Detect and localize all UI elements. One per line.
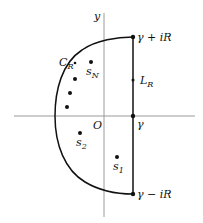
c-r-marker-dot <box>74 62 77 65</box>
gamma-label: γ <box>137 118 144 131</box>
contour-diagram: y O γ + iR γ γ − iR LR CR sN s2 s1 <box>0 0 203 223</box>
point-s-1 <box>115 155 119 159</box>
point-b <box>68 91 72 95</box>
bottom-point-dot <box>131 192 135 196</box>
l-r-marker-dot <box>132 79 135 82</box>
origin-label: O <box>93 119 102 132</box>
s-1-label: s1 <box>113 160 124 175</box>
l-r-label: LR <box>139 74 153 89</box>
gamma-point-dot <box>131 114 135 118</box>
point-c <box>65 105 69 109</box>
top-point-dot <box>131 35 135 39</box>
point-a <box>73 77 77 81</box>
s-2-label: s2 <box>76 136 87 151</box>
point-s-2 <box>78 131 82 135</box>
c-r-label: CR <box>59 56 73 71</box>
s-n-label: sN <box>86 65 100 80</box>
diagram-svg: y O γ + iR γ γ − iR LR CR sN s2 s1 <box>0 0 203 223</box>
y-axis-label: y <box>93 10 101 23</box>
top-point-label: γ + iR <box>137 31 172 44</box>
bottom-point-label: γ − iR <box>137 188 172 201</box>
point-s-n <box>89 60 93 64</box>
